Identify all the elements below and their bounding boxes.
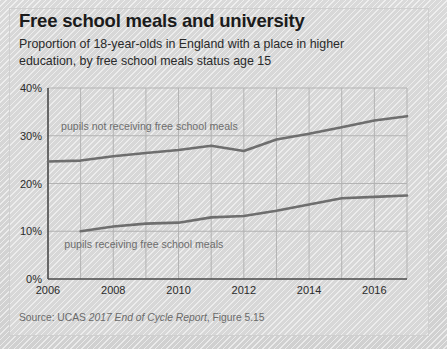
y-tick-label: 10% (20, 225, 42, 237)
source-prefix: Source: UCAS (19, 312, 89, 323)
chart-card: Free school meals and university Proport… (0, 0, 447, 349)
y-tick-label: 20% (20, 178, 42, 190)
x-tick-label: 2016 (362, 284, 386, 296)
source-note: Source: UCAS 2017 End of Cycle Report, F… (19, 312, 419, 323)
x-tick-label: 2006 (36, 284, 60, 296)
x-tick-label: 2008 (101, 284, 125, 296)
y-tick-label: 30% (20, 130, 42, 142)
x-tick-label: 2010 (166, 284, 190, 296)
x-tick-label: 2012 (232, 284, 256, 296)
series-annotation-1: pupils receiving free school meals (64, 238, 223, 250)
line-chart: 0%10%20%30%40%200620082010201220142016pu… (10, 80, 415, 305)
y-tick-label: 40% (20, 82, 42, 94)
source-report-title: 2017 End of Cycle Report (89, 312, 207, 323)
chart-subtitle: Proportion of 18-year-olds in England wi… (19, 36, 391, 69)
x-tick-label: 2014 (297, 284, 321, 296)
series-annotation-0: pupils not receiving free school meals (61, 120, 238, 132)
page-title: Free school meals and university (19, 10, 409, 32)
chart-plot-area: 0%10%20%30%40%200620082010201220142016pu… (10, 80, 415, 305)
source-suffix: , Figure 5.15 (207, 312, 265, 323)
